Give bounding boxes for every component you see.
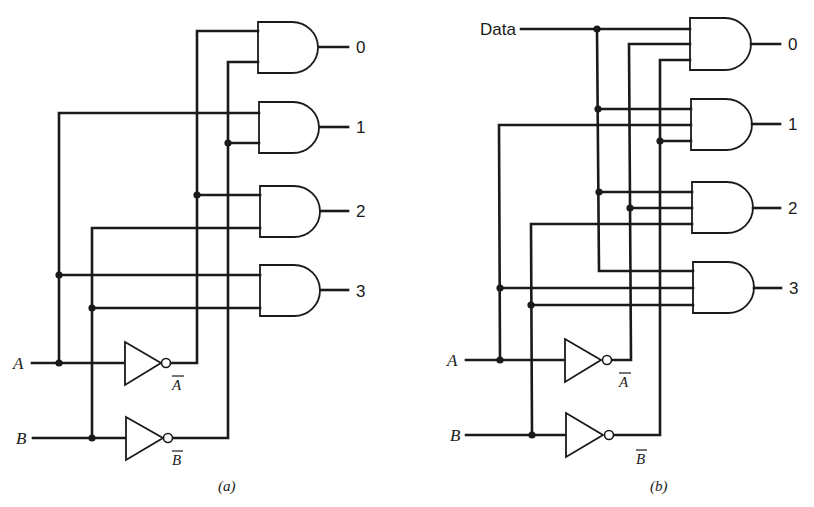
panel-a-input-label-a: A xyxy=(12,354,24,373)
panel-a-and-gate-2 xyxy=(260,186,348,237)
panel-b-and-gate-1 xyxy=(691,99,780,150)
panel-a-output-label-3: 3 xyxy=(356,282,365,301)
panel-a-output-label-0: 0 xyxy=(356,38,365,57)
panel-b-and-gate-2 xyxy=(692,182,780,233)
panel-b-input-label-b: B xyxy=(450,426,461,445)
panel-a-a-bus xyxy=(32,113,260,367)
panel-a-b-bar-bus xyxy=(174,62,259,438)
panel-a-caption: (a) xyxy=(218,478,236,495)
svg-text:B: B xyxy=(172,452,181,468)
panel-b-and-gate-3 xyxy=(693,262,781,313)
panel-a-and-gate-1 xyxy=(259,102,348,153)
panel-b-label-b-bar: B xyxy=(636,450,647,467)
panel-b-demultiplexer: 0 1 2 3 Data xyxy=(446,18,798,495)
svg-text:A: A xyxy=(171,377,182,393)
panel-a-and-gate-3 xyxy=(260,265,348,316)
panel-b-output-label-0: 0 xyxy=(788,35,797,54)
panel-b-inverter-a xyxy=(565,339,612,382)
panel-b-output-label-1: 1 xyxy=(788,115,797,134)
panel-b-and-gate-0 xyxy=(690,18,780,70)
panel-b-input-label-a: A xyxy=(446,351,458,370)
panel-a-output-label-2: 2 xyxy=(356,202,365,221)
panel-a-a-bar-bus xyxy=(172,31,260,363)
panel-a-decoder: 0 1 2 3 xyxy=(12,22,365,495)
panel-b-inverter-b xyxy=(566,413,614,457)
panel-a-and-gate-0 xyxy=(258,22,348,73)
panel-a-inverter-b xyxy=(126,417,173,460)
panel-a-inverter-a xyxy=(125,342,171,385)
panel-a-label-a-bar: A xyxy=(171,376,184,393)
panel-b-a-bar-bus xyxy=(612,44,692,360)
panel-a-input-label-b: B xyxy=(16,429,27,448)
panel-b-data-label: Data xyxy=(480,20,516,39)
panel-b-output-label-3: 3 xyxy=(789,279,798,298)
panel-a-output-label-1: 1 xyxy=(356,118,365,137)
panel-a-label-b-bar: B xyxy=(172,451,183,468)
decoder-figure: 0 1 2 3 xyxy=(0,0,814,507)
svg-text:B: B xyxy=(636,451,645,467)
panel-b-output-label-2: 2 xyxy=(788,199,797,218)
svg-text:A: A xyxy=(618,374,629,390)
panel-a-b-bus xyxy=(33,228,260,442)
panel-b-label-a-bar: A xyxy=(618,373,631,390)
panel-b-caption: (b) xyxy=(650,478,668,495)
